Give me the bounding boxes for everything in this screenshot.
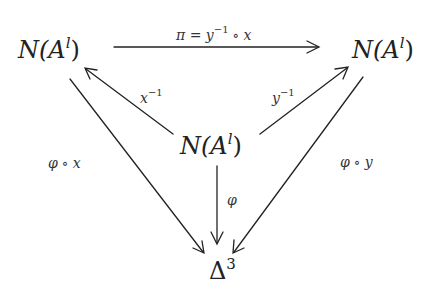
label-sup: −1 xyxy=(148,87,163,98)
compose-op: ∘ xyxy=(62,155,69,171)
arrow-left-to-bottom xyxy=(70,79,204,253)
label-part: φ xyxy=(48,155,58,171)
node-text: N(A xyxy=(180,132,228,160)
label-part: y xyxy=(272,90,280,106)
node-text: Δ xyxy=(209,257,226,285)
label-top-arrow: π = y−1∘x xyxy=(176,25,251,42)
label-part: y xyxy=(365,154,373,170)
label-phi: φ xyxy=(227,193,237,207)
label-part: x xyxy=(73,155,81,171)
label-sup: −1 xyxy=(214,24,229,35)
label-part: x xyxy=(243,27,251,43)
label-y-inverse: y−1 xyxy=(272,88,295,105)
arrow-center-to-bottom xyxy=(211,166,223,244)
node-sup: 3 xyxy=(226,255,236,273)
node-text: N(A xyxy=(352,36,400,64)
label-sup: −1 xyxy=(280,87,295,98)
node-close: ) xyxy=(71,36,80,64)
arrow-top xyxy=(114,41,319,53)
compose-op: ∘ xyxy=(354,154,361,170)
label-part: π = y xyxy=(176,27,214,43)
label-phi-compose-x: φ∘x xyxy=(48,156,81,170)
node-top-left: N(Al) xyxy=(18,36,80,62)
label-part: φ xyxy=(340,154,350,170)
label-x-inverse: x−1 xyxy=(140,88,163,105)
node-top-right: N(Al) xyxy=(352,36,414,62)
commutative-diagram: N(Al) N(Al) N(Al) Δ3 π = y−1∘x x−1 y−1 φ… xyxy=(0,0,440,298)
node-close: ) xyxy=(233,132,242,160)
node-close: ) xyxy=(405,36,414,64)
compose-op: ∘ xyxy=(233,27,240,43)
node-center: N(Al) xyxy=(180,132,242,158)
node-text: N(A xyxy=(18,36,66,64)
label-part: φ xyxy=(227,192,237,208)
label-phi-compose-y: φ∘y xyxy=(340,155,373,169)
node-bottom: Δ3 xyxy=(209,257,236,283)
label-part: x xyxy=(140,90,148,106)
